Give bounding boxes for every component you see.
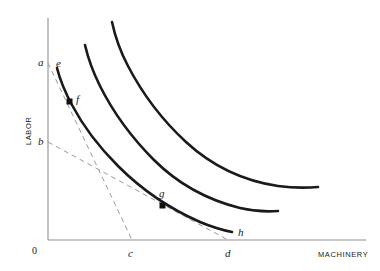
point-label-c: c [128, 248, 133, 259]
isoquant-figure: a e b f g h c d 0 LABOR MACHINERY [0, 0, 380, 271]
isocost-lines-group [48, 63, 228, 240]
diagram-canvas [0, 0, 380, 271]
axes-group [48, 18, 366, 240]
isoquant-curve-3 [112, 22, 318, 188]
x-axis-label: MACHINERY [318, 251, 368, 259]
origin-label: 0 [32, 246, 37, 256]
point-label-d: d [225, 248, 231, 259]
point-label-e: e [56, 58, 61, 69]
point-marker-f [67, 99, 73, 105]
isoquant-curve-2 [85, 45, 278, 211]
isoquant-curves-group [57, 22, 318, 232]
point-marker-g [160, 203, 166, 209]
isocost-line-bd [48, 142, 228, 240]
y-axis-label: LABOR [25, 117, 33, 145]
point-label-f: f [76, 94, 79, 105]
point-label-h: h [238, 227, 244, 238]
point-label-b: b [38, 136, 44, 147]
point-label-g: g [159, 188, 165, 199]
point-label-a: a [38, 57, 44, 68]
isocost-line-ac [48, 63, 132, 240]
